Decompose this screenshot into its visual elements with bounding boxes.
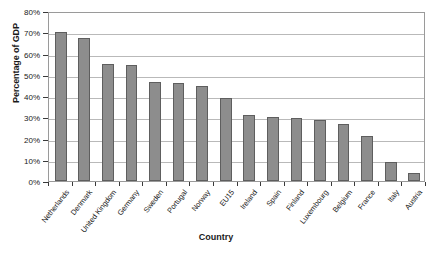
bar <box>149 82 161 181</box>
plot-area <box>48 12 425 182</box>
x-axis-tick-label: Spain <box>264 188 283 208</box>
x-axis-tick-label: Belgium <box>330 188 353 214</box>
x-axis-tick-mark <box>307 182 308 186</box>
x-axis-tick-label: Portugal <box>165 188 189 215</box>
x-axis-tick-label: EU15 <box>217 188 235 208</box>
x-axis-tick-mark <box>119 182 120 186</box>
x-axis-tick-mark <box>425 182 426 186</box>
x-axis-tick-label: Austria <box>403 188 424 211</box>
x-axis-tick-mark <box>284 182 285 186</box>
bar <box>173 83 185 181</box>
bar <box>338 124 350 181</box>
y-axis-tick-label: 40% <box>6 93 40 102</box>
x-axis-tick-mark <box>378 182 379 186</box>
y-axis-title: Percentage of GDP <box>11 3 25 123</box>
x-axis-tick-mark <box>166 182 167 186</box>
bar <box>196 86 208 181</box>
y-axis-tick-label: 60% <box>6 51 40 60</box>
y-axis-tick-label: 30% <box>6 114 40 123</box>
x-axis-tick-mark <box>260 182 261 186</box>
bar-chart: Percentage of GDP 0%10%20%30%40%50%60%70… <box>0 0 432 255</box>
bar <box>55 32 67 181</box>
x-axis-tick-label: Netherlands <box>40 188 71 225</box>
y-axis-tick-label: 50% <box>6 72 40 81</box>
bar <box>408 173 420 182</box>
x-axis-tick-mark <box>237 182 238 186</box>
x-axis-tick-mark <box>95 182 96 186</box>
x-axis-tick-label: Norway <box>190 188 212 213</box>
x-axis-tick-mark <box>142 182 143 186</box>
y-axis-tick-label: 20% <box>6 136 40 145</box>
x-axis-tick-mark <box>401 182 402 186</box>
x-axis-tick-mark <box>213 182 214 186</box>
bar <box>102 64 114 181</box>
x-axis-tick-mark <box>189 182 190 186</box>
bar <box>78 38 90 181</box>
x-axis-tick-label: Finland <box>285 188 307 212</box>
y-axis-tick-label: 10% <box>6 157 40 166</box>
y-axis-tick-label: 0% <box>6 178 40 187</box>
x-axis-tick-mark <box>331 182 332 186</box>
bar <box>385 162 397 181</box>
bar <box>291 118 303 181</box>
bar <box>361 136 373 181</box>
x-axis-tick-label: France <box>356 188 377 211</box>
x-axis-tick-mark <box>48 182 49 186</box>
x-axis-tick-label: Ireland <box>239 188 260 211</box>
bar <box>126 65 138 181</box>
x-axis-tick-mark <box>72 182 73 186</box>
y-axis-tick-label: 80% <box>6 8 40 17</box>
bar <box>220 98 232 181</box>
bar <box>267 117 279 181</box>
x-axis-title: Country <box>0 232 432 242</box>
x-axis-tick-label: Italy <box>385 188 400 204</box>
x-axis-tick-label: Germany <box>116 188 142 217</box>
x-axis-tick-mark <box>354 182 355 186</box>
y-axis-tick-label: 70% <box>6 29 40 38</box>
x-axis-tick-label: Sweden <box>142 188 165 214</box>
bars-layer <box>49 13 424 181</box>
bar <box>314 120 326 181</box>
bar <box>243 115 255 181</box>
